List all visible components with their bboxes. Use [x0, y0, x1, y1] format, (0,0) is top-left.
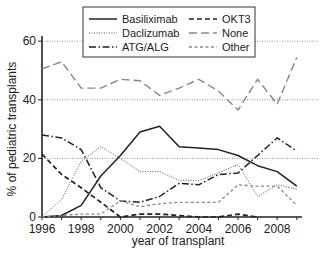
y-tick-label: 60 [23, 34, 37, 48]
y-tick-label: 40 [23, 93, 37, 107]
x-tick-label: 1996 [29, 222, 56, 236]
legend-label: ATG/ALG [122, 41, 169, 53]
line-chart: 02040601996199820002002200420062008 Basi… [0, 0, 320, 255]
series-lines [42, 57, 297, 217]
x-axis-label: year of transplant [132, 234, 225, 248]
legend: BasiliximabDaclizumabATG/ALGOKT3NoneOthe… [83, 7, 255, 57]
gridlines [42, 41, 318, 158]
axes: 02040601996199820002002200420062008 [23, 34, 302, 236]
y-axis-label: % of pediatric transplants [5, 62, 19, 197]
legend-label: Daclizumab [122, 27, 179, 39]
series-none [42, 57, 297, 110]
series-other [42, 185, 297, 217]
series-okt3 [42, 154, 258, 217]
legend-label: Other [222, 41, 250, 53]
x-tick-label: 2000 [107, 222, 134, 236]
x-tick-label: 2008 [264, 222, 291, 236]
x-tick-label: 2006 [225, 222, 252, 236]
x-tick-label: 1998 [68, 222, 95, 236]
series-atg-alg [42, 135, 297, 202]
legend-label: Basiliximab [122, 13, 178, 25]
y-tick-label: 20 [23, 151, 37, 165]
legend-label: None [222, 27, 248, 39]
legend-label: OKT3 [222, 13, 251, 25]
